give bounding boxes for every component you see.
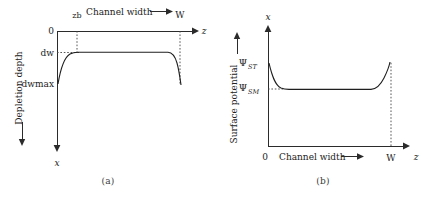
panel-a-y-axis-title: Depletion depth: [14, 51, 24, 125]
panel-b-plot: x z Ψ ST Ψ SM 0 W: [215, 0, 431, 176]
panel-a-origin-label: 0: [48, 26, 54, 36]
panel-a-z-axis: [57, 28, 199, 35]
panel-a-top-label: Channel width: [86, 7, 153, 17]
panel-a-top-arrow-icon: [150, 8, 173, 14]
panel-b-y-axis-title: Surface potential: [229, 64, 239, 143]
panel-b-z-axis: [268, 143, 410, 150]
panel-b-origin-label: 0: [262, 152, 268, 162]
panel-a-plot: Channel width 0 zb W z x: [0, 0, 216, 176]
panel-b-w-label: W: [386, 153, 396, 163]
panel-b: x z Ψ ST Ψ SM 0 W: [215, 0, 431, 203]
panel-a-depletion-curve: [58, 52, 181, 85]
panel-a-x-axis-label: x: [54, 158, 59, 168]
panel-b-x-axis-label: x: [265, 12, 270, 22]
panel-a-zb-label: zb: [72, 11, 81, 20]
panel-a: Channel width 0 zb W z x: [0, 0, 216, 203]
panel-b-psi-st-label: Ψ ST: [239, 57, 258, 71]
svg-text:Ψ: Ψ: [239, 57, 247, 68]
svg-text:ST: ST: [248, 63, 257, 71]
panel-a-dw-label: dw: [41, 48, 55, 58]
panel-b-caption: (b): [215, 176, 431, 186]
figure-root: Channel width 0 zb W z x: [0, 0, 431, 203]
panel-b-bottom-label: Channel width: [279, 152, 346, 162]
panel-b-z-axis-label: z: [413, 152, 419, 162]
panel-a-w-label: W: [175, 10, 185, 20]
panel-b-surface-potential-curve: [269, 62, 390, 89]
panel-a-caption: (a): [0, 176, 216, 186]
panel-b-psi-sm-label: Ψ SM: [239, 82, 260, 96]
svg-text:SM: SM: [248, 88, 259, 96]
panel-b-x-axis: [265, 25, 272, 146]
panel-a-z-axis-label: z: [201, 26, 207, 36]
panel-a-x-axis: [54, 31, 61, 152]
svg-text:Ψ: Ψ: [239, 82, 247, 93]
panel-a-dwmax-label: dwmax: [22, 79, 54, 89]
panel-b-potential-arrow-icon: [234, 32, 240, 54]
